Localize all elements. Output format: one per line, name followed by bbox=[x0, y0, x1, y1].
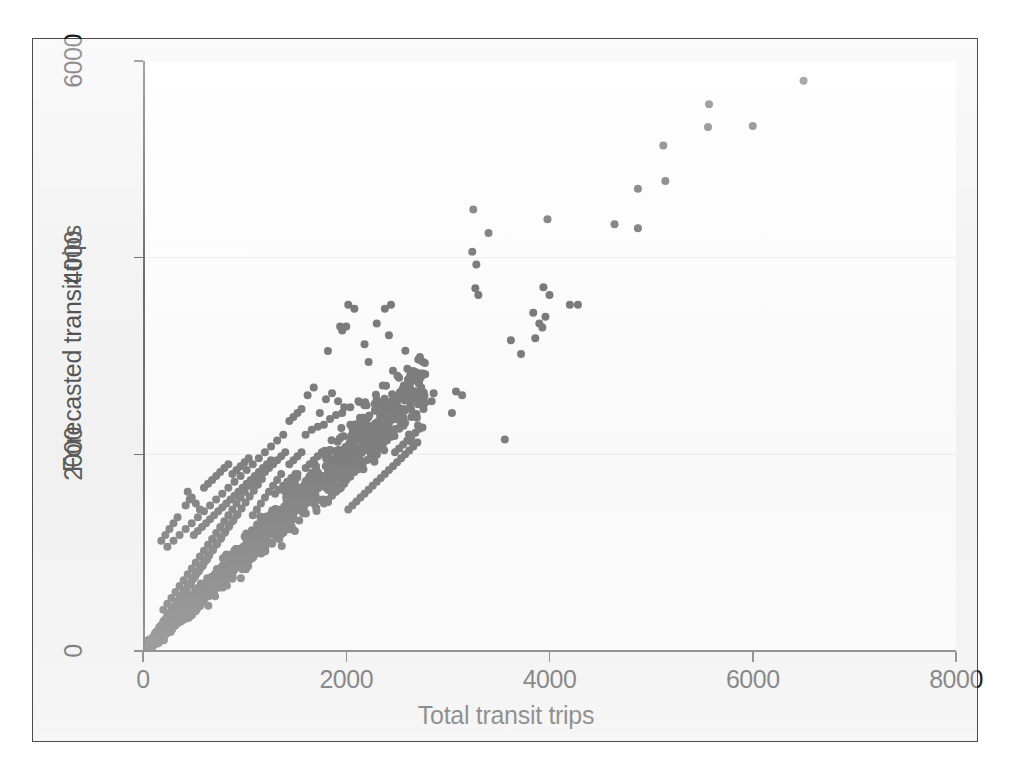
y-axis-tick-label: 0 bbox=[66, 637, 79, 666]
data-point bbox=[501, 436, 509, 444]
data-point bbox=[316, 409, 324, 417]
data-point bbox=[531, 334, 539, 342]
data-point bbox=[417, 373, 425, 381]
data-point bbox=[375, 408, 383, 416]
data-point bbox=[386, 431, 394, 439]
data-point bbox=[328, 436, 336, 444]
data-point bbox=[749, 122, 757, 130]
data-point bbox=[399, 415, 407, 423]
data-point bbox=[220, 558, 228, 566]
data-point bbox=[230, 478, 238, 486]
data-point bbox=[413, 439, 421, 447]
data-point bbox=[393, 372, 401, 380]
data-point bbox=[543, 215, 551, 223]
data-point bbox=[336, 434, 344, 442]
data-point bbox=[182, 525, 190, 533]
data-point bbox=[204, 602, 212, 610]
data-point bbox=[659, 142, 667, 150]
data-point bbox=[365, 358, 373, 366]
data-point bbox=[399, 422, 407, 430]
data-point bbox=[177, 613, 185, 621]
data-point bbox=[402, 393, 410, 401]
data-point bbox=[370, 456, 378, 464]
data-point bbox=[258, 475, 266, 483]
data-point bbox=[382, 382, 390, 390]
data-point bbox=[634, 224, 642, 232]
data-point bbox=[413, 414, 421, 422]
data-point bbox=[237, 574, 245, 582]
x-axis-tick-label: 0 bbox=[136, 665, 149, 694]
data-point bbox=[243, 540, 251, 548]
data-point bbox=[279, 431, 287, 439]
data-point bbox=[304, 391, 312, 399]
data-point bbox=[272, 525, 280, 533]
data-point bbox=[301, 483, 309, 491]
data-point bbox=[281, 448, 289, 456]
data-point bbox=[361, 340, 369, 348]
x-axis-tick bbox=[346, 652, 348, 662]
data-point bbox=[354, 465, 362, 473]
data-point bbox=[342, 323, 350, 331]
data-point bbox=[344, 450, 352, 458]
data-point bbox=[468, 248, 476, 256]
data-point bbox=[285, 417, 293, 425]
figure-wrapper: 0200040006000 02000400060008000 Total tr… bbox=[0, 0, 1009, 783]
data-point bbox=[323, 448, 331, 456]
data-point bbox=[355, 435, 363, 443]
data-point bbox=[157, 537, 165, 545]
data-point bbox=[194, 513, 202, 521]
y-axis-tick-label-text: 0 bbox=[59, 644, 88, 657]
data-point bbox=[180, 605, 188, 613]
data-point bbox=[326, 415, 334, 423]
data-point bbox=[371, 400, 379, 408]
data-point bbox=[278, 512, 286, 520]
data-point bbox=[529, 309, 537, 317]
data-point bbox=[314, 496, 322, 504]
data-point bbox=[340, 403, 348, 411]
data-point bbox=[538, 323, 546, 331]
data-point bbox=[375, 438, 383, 446]
data-point bbox=[507, 336, 515, 344]
data-point bbox=[414, 392, 422, 400]
data-point bbox=[302, 431, 310, 439]
data-point bbox=[185, 592, 193, 600]
data-point bbox=[176, 531, 184, 539]
data-point bbox=[333, 457, 341, 465]
data-point bbox=[354, 457, 362, 465]
x-axis-tick-label: 4000 bbox=[523, 665, 577, 694]
data-point bbox=[374, 421, 382, 429]
data-point bbox=[298, 448, 306, 456]
data-point bbox=[242, 556, 250, 564]
data-point bbox=[661, 177, 669, 185]
data-point bbox=[149, 636, 157, 644]
data-point bbox=[406, 403, 414, 411]
data-point bbox=[421, 399, 429, 407]
data-point bbox=[224, 484, 232, 492]
data-point bbox=[363, 435, 371, 443]
y-axis-tick bbox=[134, 60, 143, 62]
data-point bbox=[201, 583, 209, 591]
x-axis-tick bbox=[549, 652, 551, 662]
data-point bbox=[634, 185, 642, 193]
data-point bbox=[262, 542, 270, 550]
data-point bbox=[517, 350, 525, 358]
data-point bbox=[351, 426, 359, 434]
x-axis-tick bbox=[142, 652, 144, 662]
data-point bbox=[194, 601, 202, 609]
data-point bbox=[405, 383, 413, 391]
data-point bbox=[346, 473, 354, 481]
plot-region bbox=[143, 61, 956, 651]
data-point bbox=[390, 393, 398, 401]
data-point bbox=[704, 123, 712, 131]
data-point bbox=[541, 313, 549, 321]
data-point bbox=[373, 320, 381, 328]
data-point bbox=[257, 526, 265, 534]
data-point bbox=[156, 632, 164, 640]
data-point bbox=[800, 77, 808, 85]
data-point bbox=[232, 560, 240, 568]
scatter-series bbox=[143, 77, 808, 651]
data-point bbox=[566, 301, 574, 309]
data-point bbox=[186, 496, 194, 504]
data-point bbox=[574, 301, 582, 309]
x-axis-tick bbox=[752, 652, 754, 662]
